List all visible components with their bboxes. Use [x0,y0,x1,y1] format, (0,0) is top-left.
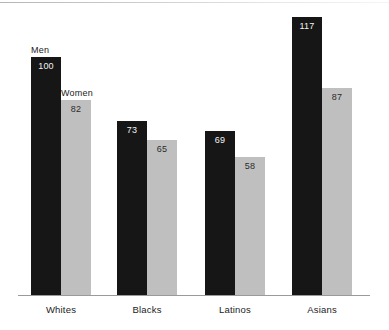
bar-value-men-asians: 117 [292,21,322,31]
bar-men-blacks: 73 [117,121,147,295]
x-axis-label-asians: Asians [270,304,374,315]
bar-women-asians: 87 [322,88,352,295]
bar-value-men-blacks: 73 [117,125,147,135]
bar-women-latinos: 58 [235,157,265,295]
bar-men-latinos: 69 [205,131,235,295]
plot-area: Men 100 Women 82 73 65 69 58 117 87 [0,0,389,330]
x-axis-line [18,295,370,296]
bar-value-men-whites: 100 [31,61,61,71]
bar-value-women-blacks: 65 [147,144,177,154]
bar-men-whites: 100 [31,57,61,295]
bar-value-women-asians: 87 [322,92,352,102]
bar-value-women-whites: 82 [61,104,91,114]
bar-value-men-latinos: 69 [205,135,235,145]
bar-men-asians: 117 [292,17,322,295]
bar-women-blacks: 65 [147,140,177,295]
bar-women-whites: 82 [61,100,91,295]
bar-value-women-latinos: 58 [235,161,265,171]
series-label-women: Women [61,88,93,98]
chart-container: Men 100 Women 82 73 65 69 58 117 87 [0,0,389,330]
series-label-men: Men [31,45,49,55]
